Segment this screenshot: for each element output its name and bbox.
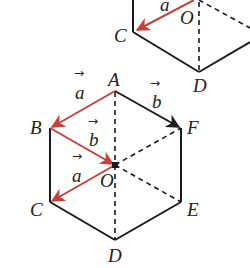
top-label-o: O xyxy=(180,7,194,28)
top-edge-c-d xyxy=(133,32,199,72)
top-label-c: C xyxy=(114,25,127,46)
vector-label-a-ab: a xyxy=(75,82,85,103)
top-edge-d-e xyxy=(199,42,250,72)
vertex-label-e: E xyxy=(186,199,199,220)
vector-label-a-oc: a xyxy=(72,165,82,186)
vector-b-af xyxy=(115,91,179,127)
edge-d-e xyxy=(115,202,181,240)
vertex-label-f: F xyxy=(186,117,199,138)
dashed-o-f xyxy=(115,128,181,165)
vertex-label-o: O xyxy=(100,170,114,191)
vertex-label-c: C xyxy=(30,199,43,220)
arrow-glyph-b-af: → xyxy=(150,76,160,90)
edge-c-d xyxy=(50,202,115,240)
bottom-hexagon: A B F O C E D → a → b → b → a xyxy=(30,66,199,266)
top-partial-hexagon: a O C D xyxy=(114,0,250,96)
top-label-a: a xyxy=(160,0,170,15)
center-point-o xyxy=(112,162,118,168)
vector-label-b-af: b xyxy=(152,91,162,112)
hexagon-vector-diagram: a O C D A B F O C E D → a → xyxy=(0,0,250,268)
top-dashed-o-e xyxy=(199,0,250,28)
vertex-label-a: A xyxy=(106,69,120,90)
vertex-label-d: D xyxy=(107,245,122,266)
dashed-o-e xyxy=(115,165,181,202)
vector-label-b-bo: b xyxy=(89,129,99,150)
arrow-glyph-a-oc: → xyxy=(72,149,82,163)
arrow-glyph-a-ab: → xyxy=(74,66,84,80)
top-label-d: D xyxy=(192,75,207,96)
vertex-label-b: B xyxy=(30,117,42,138)
arrow-glyph-b-bo: → xyxy=(88,114,98,128)
